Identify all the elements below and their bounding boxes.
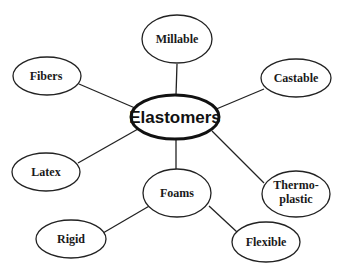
node-foams: Foams bbox=[143, 169, 211, 217]
node-thermoplastic: Thermo- plastic bbox=[262, 171, 330, 217]
elastomers-diagram: Millable Fibers Castable Latex Thermo- p… bbox=[0, 0, 339, 269]
node-label: Fibers bbox=[30, 69, 63, 83]
edge-rigid bbox=[103, 205, 151, 233]
node-fibers: Fibers bbox=[13, 57, 81, 95]
node-label: Flexible bbox=[246, 235, 287, 249]
node-label: Latex bbox=[31, 165, 60, 179]
node-rigid: Rigid bbox=[36, 220, 106, 258]
node-latex: Latex bbox=[12, 153, 80, 191]
node-millable: Millable bbox=[142, 15, 212, 63]
node-castable: Castable bbox=[261, 59, 331, 97]
edge-thermoplastic bbox=[212, 131, 264, 183]
node-label-line1: Thermo- bbox=[273, 178, 318, 192]
node-label: Millable bbox=[156, 32, 199, 46]
node-label: Castable bbox=[274, 71, 319, 85]
edge-flexible bbox=[209, 206, 237, 232]
edge-fibers bbox=[79, 84, 135, 108]
node-label: Rigid bbox=[57, 232, 85, 246]
node-label: Foams bbox=[160, 186, 194, 200]
edge-latex bbox=[78, 129, 138, 163]
node-label-line2: plastic bbox=[279, 192, 313, 206]
edge-castable bbox=[214, 89, 264, 110]
edge-millable bbox=[176, 64, 177, 95]
node-elastomers-center: Elastomers bbox=[129, 95, 221, 139]
center-label: Elastomers bbox=[129, 108, 221, 127]
node-flexible: Flexible bbox=[232, 222, 300, 262]
